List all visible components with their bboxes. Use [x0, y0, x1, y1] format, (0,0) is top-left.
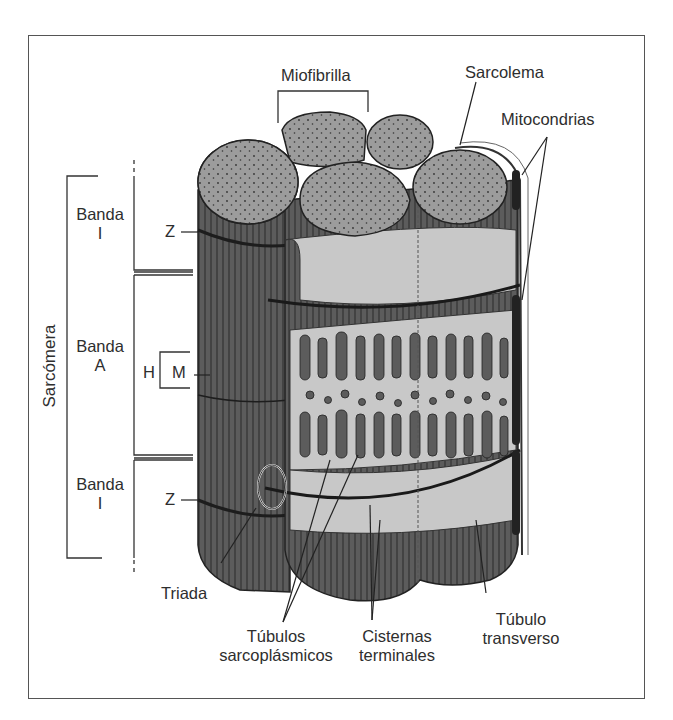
- label-z-top: Z: [165, 222, 175, 241]
- label-triada: Triada: [161, 584, 207, 603]
- label-z-bottom: Z: [165, 490, 175, 509]
- label-tubulos-sarcoplasmicos: Túbulos sarcoplásmicos: [201, 627, 351, 665]
- label-h: H: [143, 363, 155, 382]
- label-tubulo-line1: Túbulo: [473, 610, 569, 629]
- label-tubulo-line2: transverso: [473, 629, 569, 648]
- label-tubulos-line1: Túbulos: [201, 627, 351, 646]
- label-banda-a-line2: A: [70, 356, 130, 375]
- mitochondrion: [512, 450, 520, 535]
- mitochondrion: [512, 295, 520, 445]
- label-banda-a-line1: Banda: [70, 337, 130, 356]
- label-miofibrilla: Miofibrilla: [281, 66, 351, 85]
- label-cisternas-line1: Cisternas: [350, 627, 444, 646]
- mitochondrion: [512, 170, 520, 210]
- label-m: M: [172, 363, 186, 382]
- label-banda-a: Banda A: [70, 337, 130, 375]
- label-banda-i-top: Banda I: [70, 205, 130, 243]
- label-tubulo-transverso: Túbulo transverso: [473, 610, 569, 648]
- label-cisternas-line2: terminales: [350, 646, 444, 665]
- label-tubulos-line2: sarcoplásmicos: [201, 646, 351, 665]
- label-sarcomera: Sarcómera: [40, 321, 60, 411]
- label-banda-i-top-line2: I: [70, 224, 130, 243]
- label-sarcolema: Sarcolema: [465, 63, 544, 82]
- label-banda-i-bottom-line1: Banda: [70, 475, 130, 494]
- label-mitocondrias: Mitocondrias: [501, 110, 595, 129]
- label-banda-i-top-line1: Banda: [70, 205, 130, 224]
- myofibril-center-right: [258, 180, 520, 601]
- myofibril-cross-sections: [198, 112, 507, 236]
- label-cisternas-terminales: Cisternas terminales: [350, 627, 444, 665]
- label-banda-i-bottom-line2: I: [70, 494, 130, 513]
- label-banda-i-bottom: Banda I: [70, 475, 130, 513]
